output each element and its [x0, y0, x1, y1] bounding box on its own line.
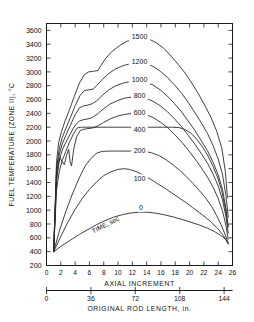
y-tick-label: 1600: [26, 164, 42, 173]
curve-0: [54, 212, 229, 252]
curve-label-1500: 1500: [132, 33, 148, 40]
x-tick-label: 18: [172, 269, 180, 276]
y-tick-label: 1800: [26, 150, 42, 159]
curve-label-400: 400: [134, 126, 146, 133]
y-tick-label: 2600: [26, 95, 42, 104]
curve-label-0: 0: [139, 204, 143, 211]
x-tick-label: 22: [200, 269, 208, 276]
chart-canvas: 2004006008001000120014001600180020002200…: [0, 0, 254, 322]
secondary-x-tick-label: 0: [45, 295, 49, 302]
x-tick-label: 8: [102, 269, 106, 276]
curve-label-1200: 1200: [132, 58, 148, 65]
y-tick-label: 2800: [26, 81, 42, 90]
secondary-x-tick-label: 36: [87, 295, 95, 302]
x-tick-label: 6: [88, 269, 92, 276]
curve-label-600: 600: [134, 109, 146, 116]
secondary-x-tick-label: 108: [174, 295, 186, 302]
x-tick-label: 12: [129, 269, 137, 276]
y-tick-label: 3400: [26, 40, 42, 49]
y-tick-label: 2000: [26, 137, 42, 146]
y-tick-label: 1200: [26, 192, 42, 201]
x-tick-label: 2: [59, 269, 63, 276]
x-tick-label: 0: [45, 269, 49, 276]
y-axis-title: FUEL TEMPERATURE (ZONE II), °C: [8, 83, 16, 207]
x-axis-title: AXIAL INCREMENT: [104, 280, 174, 287]
y-tick-label: 2200: [26, 123, 42, 132]
curve-series-group: [54, 38, 229, 252]
y-tick-label: 400: [30, 247, 42, 256]
y-tick-label: 2400: [26, 109, 42, 118]
y-tick-label: 200: [30, 261, 42, 270]
time-sec-annotation: TIME, sec: [91, 214, 121, 234]
y-tick-label: 3600: [26, 26, 42, 35]
secondary-x-axis: 03672108144: [45, 287, 233, 302]
curve-label-800: 800: [134, 92, 146, 99]
y-tick-label: 800: [30, 220, 42, 229]
x-tick-label: 14: [143, 269, 151, 276]
x-tick-label: 16: [157, 269, 165, 276]
y-tick-label: 3200: [26, 54, 42, 63]
secondary-x-tick-label: 72: [132, 295, 140, 302]
x-tick-label: 24: [215, 269, 223, 276]
secondary-x-axis-title: ORIGINAL ROD LENGTH, in.: [87, 305, 191, 312]
x-tick-label: 4: [73, 269, 77, 276]
x-tick-label: 26: [229, 269, 237, 276]
y-tick-label: 3000: [26, 68, 42, 77]
curve-label-1000: 1000: [132, 76, 148, 83]
x-tick-label: 10: [114, 269, 122, 276]
y-tick-label: 600: [30, 233, 42, 242]
secondary-x-tick-label: 144: [218, 295, 230, 302]
x-tick-label: 20: [186, 269, 194, 276]
curve-label-100: 100: [134, 175, 146, 182]
curve-labels-group: 1500120010008006004002001000TIME, sec: [91, 33, 151, 235]
y-tick-label: 1000: [26, 206, 42, 215]
curve-label-200: 200: [134, 147, 146, 154]
fuel-temperature-chart: 2004006008001000120014001600180020002200…: [0, 0, 254, 322]
y-tick-label: 1400: [26, 178, 42, 187]
